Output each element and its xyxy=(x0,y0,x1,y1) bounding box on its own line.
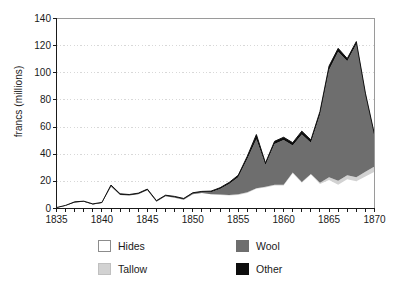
legend-item-hides: Hides xyxy=(98,240,236,252)
y-tick-label-20: 20 xyxy=(17,176,51,186)
legend-label-wool: Wool xyxy=(256,240,280,252)
area-series-group xyxy=(57,42,375,209)
x-tick-label-1865: 1865 xyxy=(309,215,349,225)
plot-area: francs (millions) 020406080100120140 183… xyxy=(0,0,397,232)
y-tick-label-60: 60 xyxy=(17,122,51,132)
y-tick-label-80: 80 xyxy=(17,95,51,105)
y-tick-label-40: 40 xyxy=(17,149,51,159)
x-tick-label-1860: 1860 xyxy=(264,215,304,225)
stacked-area-chart: francs (millions) 020406080100120140 183… xyxy=(0,0,397,291)
x-tick-label-1870: 1870 xyxy=(355,215,395,225)
x-tick-label-1855: 1855 xyxy=(218,215,258,225)
legend-label-hides: Hides xyxy=(118,240,145,252)
x-tick-label-1850: 1850 xyxy=(173,215,213,225)
legend-label-tallow: Tallow xyxy=(118,263,147,275)
x-tick-label-1840: 1840 xyxy=(82,215,122,225)
legend-item-other: Other xyxy=(236,263,358,275)
legend-item-wool: Wool xyxy=(236,240,358,252)
legend-swatch-tallow xyxy=(98,263,111,275)
legend-swatch-other xyxy=(236,263,249,275)
legend-swatch-wool xyxy=(236,240,249,252)
chart-legend: Hides Wool Tallow Other xyxy=(98,240,358,286)
y-tick-label-140: 140 xyxy=(17,14,51,24)
legend-swatch-hides xyxy=(98,240,111,252)
y-tick-label-120: 120 xyxy=(17,41,51,51)
legend-item-tallow: Tallow xyxy=(98,263,236,275)
y-tick-label-0: 0 xyxy=(17,204,51,214)
x-tick-label-1845: 1845 xyxy=(127,215,167,225)
x-tick-label-1835: 1835 xyxy=(37,215,77,225)
legend-label-other: Other xyxy=(256,263,282,275)
plot-svg xyxy=(0,0,397,232)
y-tick-label-100: 100 xyxy=(17,68,51,78)
